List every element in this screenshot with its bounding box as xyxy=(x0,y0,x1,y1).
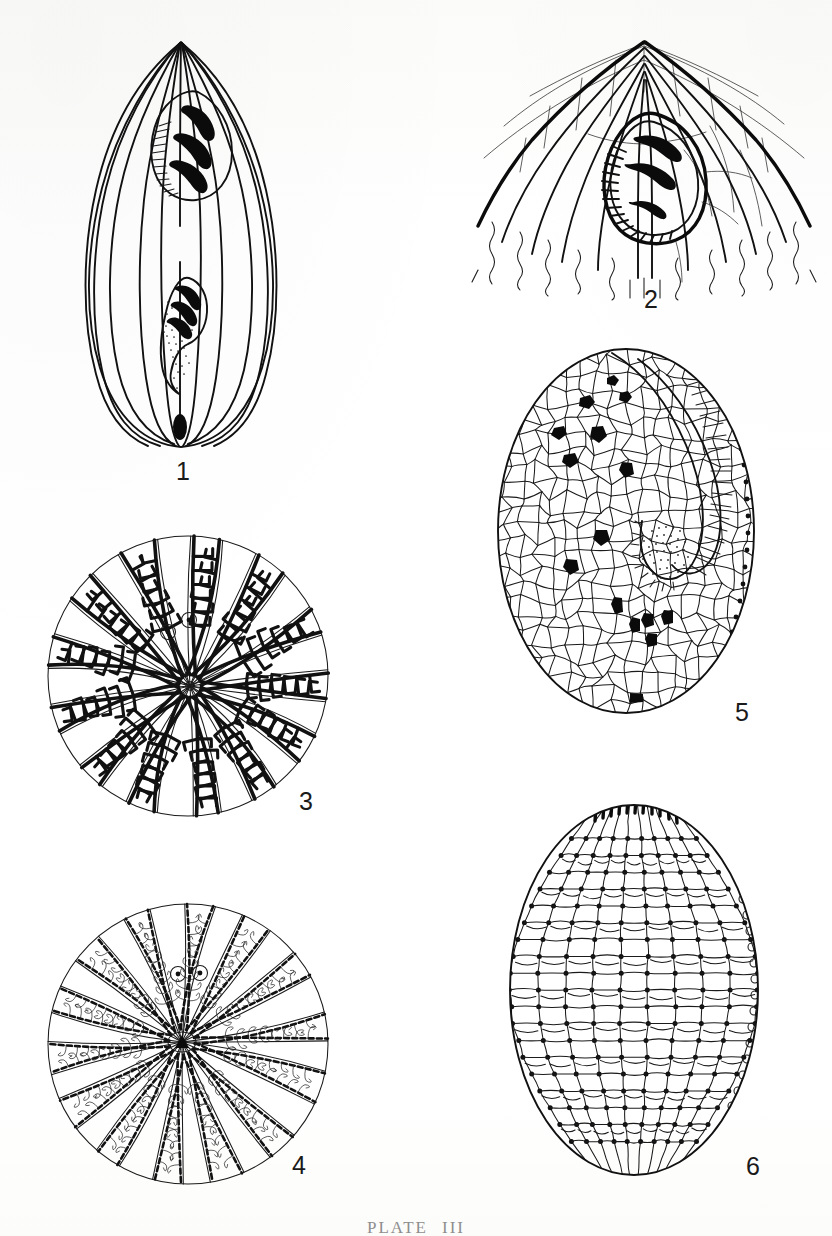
figure-4-label: 4 xyxy=(292,1153,306,1178)
plate-caption-number: III xyxy=(442,1218,465,1234)
plate-caption: PLATEIII xyxy=(0,1218,832,1234)
marginal-pore-row xyxy=(730,431,751,635)
figure-4: 4 xyxy=(40,898,340,1198)
figure-3: 3 xyxy=(40,528,340,828)
figure-2: 2 xyxy=(470,30,820,315)
figure-5: 5 xyxy=(492,345,792,740)
figure-2-label: 2 xyxy=(644,287,658,312)
figure-3-label: 3 xyxy=(299,789,313,814)
plate-caption-word: PLATE xyxy=(367,1218,428,1234)
figure-5-label: 5 xyxy=(735,700,749,725)
basal-pore xyxy=(173,414,187,440)
figure-1: 1 xyxy=(40,30,340,455)
illustration-plate: 1 xyxy=(0,0,832,1236)
figure-6-label: 6 xyxy=(746,1154,760,1179)
figure-6: 6 xyxy=(500,795,800,1195)
aperture-main xyxy=(602,113,706,243)
figure-1-label: 1 xyxy=(176,459,190,484)
